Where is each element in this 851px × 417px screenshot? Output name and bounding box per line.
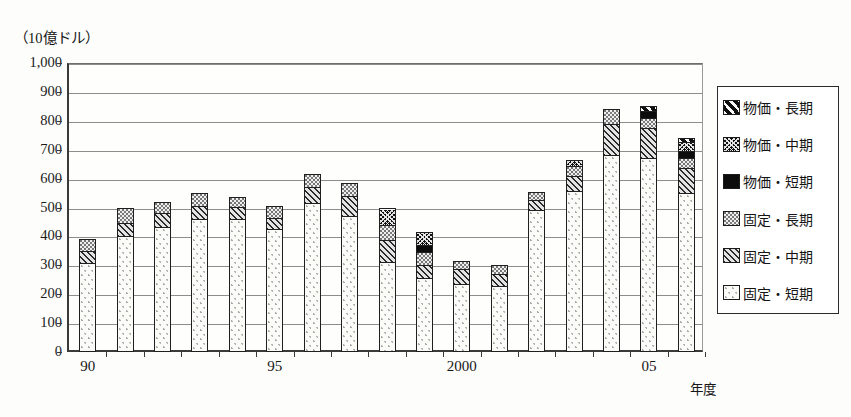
x-axis-tick-label: 05 xyxy=(641,358,656,375)
bar-94 xyxy=(229,197,246,352)
legend-item[interactable]: 固定・長期 xyxy=(723,204,834,234)
legend-item-label: 物価・短期 xyxy=(743,171,813,191)
y-axis-tick-mark xyxy=(57,150,62,151)
x-axis-tick-mark xyxy=(555,352,556,357)
legend-item-label: 物価・長期 xyxy=(743,97,813,117)
legend-swatch-icon xyxy=(723,174,740,189)
legend-item[interactable]: 固定・短期 xyxy=(723,278,834,308)
bar-95 xyxy=(266,206,283,352)
x-axis-tick-mark xyxy=(294,352,295,357)
bar-segment xyxy=(641,129,656,159)
y-axis-tick-labels: 1,0009008007006005004003002001000 xyxy=(0,63,62,352)
y-axis-unit-label: （10億ドル） xyxy=(14,26,99,47)
legend-item-label: 固定・長期 xyxy=(743,209,813,229)
x-axis-tick-mark xyxy=(481,352,482,357)
bar-2000 xyxy=(453,261,470,352)
x-axis-tick-mark xyxy=(144,352,145,357)
bar-segment xyxy=(679,159,694,169)
bar-segment xyxy=(230,208,245,219)
bar-segment xyxy=(342,217,357,351)
y-axis-tick-label: 600 xyxy=(6,171,62,186)
y-axis-tick-label: 900 xyxy=(6,84,62,99)
chart-figure: （10億ドル） 1,000900800700600500400300200100… xyxy=(0,0,851,417)
bar-02 xyxy=(528,192,545,352)
bar-segment xyxy=(529,201,544,211)
x-axis-tick-mark xyxy=(406,352,407,357)
y-axis-tick-mark xyxy=(57,265,62,266)
legend-swatch-icon xyxy=(723,137,740,152)
x-axis-tick-mark xyxy=(593,352,594,357)
y-axis-tick-label: 800 xyxy=(6,113,62,128)
bar-segment xyxy=(417,266,432,279)
y-axis-tick-mark xyxy=(57,121,62,122)
y-axis-tick-mark xyxy=(57,323,62,324)
legend-swatch-icon xyxy=(723,100,740,115)
bar-99 xyxy=(416,232,433,352)
legend-item[interactable]: 物価・短期 xyxy=(723,166,834,196)
bar-96 xyxy=(304,174,321,352)
bar-segment xyxy=(118,209,133,225)
bar-segment xyxy=(679,143,694,152)
y-axis-tick-label: 0 xyxy=(6,344,62,359)
y-axis-tick-label: 1,000 xyxy=(6,55,62,70)
bar-segment xyxy=(192,194,207,207)
x-axis-tick-mark xyxy=(181,352,182,357)
bar-98 xyxy=(379,208,396,353)
bar-segment xyxy=(679,169,694,193)
bar-segment xyxy=(529,193,544,202)
bar-segment xyxy=(604,156,619,351)
bar-segment xyxy=(380,210,395,226)
bar-segment xyxy=(267,219,282,230)
x-axis-tick-mark xyxy=(668,352,669,357)
bar-segment xyxy=(417,279,432,351)
bar-segment xyxy=(492,287,507,351)
bar-04 xyxy=(603,109,620,352)
y-axis-tick-mark xyxy=(57,179,62,180)
legend-item-label: 固定・中期 xyxy=(743,246,813,266)
y-axis-tick-mark xyxy=(57,63,62,64)
bar-segment xyxy=(454,262,469,270)
y-axis-tick-label: 100 xyxy=(6,315,62,330)
y-axis-tick-mark xyxy=(57,294,62,295)
bar-series-container xyxy=(67,63,703,352)
bar-05 xyxy=(640,106,657,352)
bar-segment xyxy=(417,253,432,266)
y-axis-tick-mark xyxy=(57,92,62,93)
legend-swatch-icon xyxy=(723,211,740,226)
bar-03 xyxy=(566,160,583,352)
bar-segment xyxy=(604,110,619,124)
bar-segment xyxy=(192,220,207,351)
bar-segment xyxy=(417,233,432,246)
bar-segment xyxy=(641,112,656,119)
bar-segment xyxy=(230,220,245,351)
bar-segment xyxy=(155,214,170,228)
bar-segment xyxy=(380,226,395,242)
bar-segment xyxy=(267,230,282,351)
bar-91 xyxy=(117,208,134,353)
x-axis-tick-mark xyxy=(705,352,706,357)
bar-segment xyxy=(80,264,95,351)
y-axis-tick-mark xyxy=(57,236,62,237)
legend-item[interactable]: 物価・長期 xyxy=(723,92,834,122)
bar-06 xyxy=(678,138,695,352)
legend-item[interactable]: 物価・中期 xyxy=(723,129,834,159)
bar-01 xyxy=(491,265,508,352)
x-axis-tick-mark xyxy=(443,352,444,357)
bar-segment xyxy=(118,224,133,237)
bar-segment xyxy=(454,270,469,284)
y-axis-tick-label: 200 xyxy=(6,286,62,301)
bar-segment xyxy=(604,125,619,157)
y-axis-tick-label: 300 xyxy=(6,257,62,272)
bar-segment xyxy=(155,228,170,351)
bar-segment xyxy=(305,188,320,204)
bar-segment xyxy=(679,152,694,159)
legend-item[interactable]: 固定・中期 xyxy=(723,241,834,271)
x-axis-tick-mark xyxy=(106,352,107,357)
bar-segment xyxy=(155,203,170,214)
bar-segment xyxy=(80,252,95,265)
bar-segment xyxy=(679,194,694,351)
x-axis-title: 年度 xyxy=(690,378,716,398)
y-axis-tick-mark xyxy=(57,208,62,209)
x-axis-tick-label: 90 xyxy=(80,358,95,375)
bar-segment xyxy=(305,204,320,351)
